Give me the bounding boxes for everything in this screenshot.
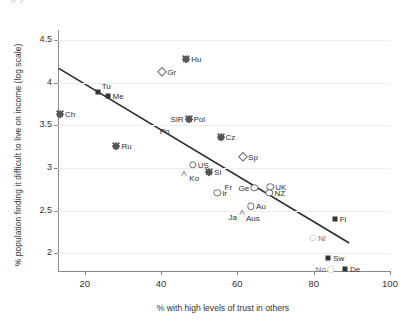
marker-diamond-filled-icon	[56, 110, 64, 118]
y-axis-tick-label: 2.5	[28, 205, 52, 215]
y-axis-tick-label: 4.5	[28, 34, 52, 44]
y-axis-tick	[54, 253, 58, 254]
point-label: Au	[256, 203, 266, 211]
point-label: Cz	[226, 133, 236, 141]
marker-triangle-open-icon	[239, 210, 245, 215]
marker-square-filled-icon	[105, 93, 110, 98]
marker-diamond-filled-icon	[217, 133, 225, 141]
point-label: Tu	[102, 83, 111, 91]
point-label: Hu	[191, 55, 201, 63]
point-label: Ir	[222, 189, 227, 197]
marker-triangle-open-icon	[181, 171, 187, 176]
point-label: Sw	[333, 254, 344, 262]
marker-square-filled-icon	[326, 255, 331, 260]
x-axis-tick-label: 20	[70, 278, 100, 289]
y-axis-tick-label: 3.5	[28, 119, 52, 129]
point-label: Ko	[189, 175, 199, 183]
point-label: Me	[113, 92, 124, 100]
point-label: Po	[160, 128, 170, 136]
y-axis-tick-label: 3	[28, 162, 52, 172]
trend-line	[58, 30, 390, 272]
y-axis-title: % population finding it difficult to liv…	[13, 15, 23, 295]
x-axis-tick-label: 80	[299, 278, 329, 289]
gridline	[58, 168, 390, 169]
y-axis-tick	[54, 168, 58, 169]
gridline	[58, 40, 390, 41]
point-label: Ch	[65, 110, 75, 118]
cropped-title-remnant: g y	[0, 0, 414, 10]
point-label: Sl	[214, 169, 221, 177]
x-axis-title: % with high levels of trust in others	[58, 303, 388, 313]
x-axis-tick	[314, 271, 315, 275]
marker-square-filled-icon	[342, 267, 347, 272]
point-label: Gr	[167, 68, 176, 76]
gridline	[58, 211, 390, 212]
gridline	[58, 125, 390, 126]
point-label: NZ	[274, 189, 285, 197]
x-axis-tick	[390, 271, 391, 275]
marker-diamond-filled-icon	[182, 55, 190, 63]
y-axis-tick	[54, 125, 58, 126]
plot-area: 4.543.532.5220406080100ChTuMeRuPoGrHuSlR…	[58, 30, 390, 272]
point-label: Nl	[318, 234, 326, 242]
x-axis-tick	[237, 271, 238, 275]
x-axis-tick-label: 60	[222, 278, 252, 289]
point-label: Aus	[246, 215, 260, 223]
scatter-plot-figure: g y % population finding it difficult to…	[0, 0, 414, 326]
point-label: Ja	[228, 214, 236, 222]
point-label: Fi	[340, 216, 347, 224]
point-label: SlR	[171, 116, 184, 124]
y-axis-tick	[54, 83, 58, 84]
marker-diamond-filled-icon	[112, 142, 120, 150]
x-axis-tick-label: 40	[146, 278, 176, 289]
marker-diamond-filled-icon	[205, 168, 213, 176]
point-label: No	[316, 266, 326, 274]
y-axis-tick-label: 4	[28, 77, 52, 87]
point-label: Sp	[248, 153, 258, 161]
point-label: Ru	[121, 142, 131, 150]
marker-square-filled-icon	[95, 90, 100, 95]
x-axis-tick-label: 100	[375, 278, 405, 289]
point-label: Pol	[194, 116, 206, 124]
y-axis-tick	[54, 211, 58, 212]
marker-circle-faint-icon	[327, 266, 334, 273]
y-axis-tick-label: 2	[28, 247, 52, 257]
x-axis-tick	[85, 271, 86, 275]
y-axis-tick	[54, 40, 58, 41]
marker-square-filled-icon	[332, 217, 337, 222]
x-axis-tick	[161, 271, 162, 275]
point-label: Ge	[238, 184, 249, 192]
point-label: De	[350, 266, 360, 274]
marker-diamond-filled-icon	[185, 116, 193, 124]
